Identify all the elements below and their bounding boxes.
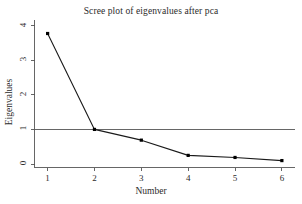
axes-group [31,20,295,171]
data-series-group [48,34,282,161]
data-point-marker [187,154,190,157]
data-point-marker [46,32,49,35]
plot-canvas [0,0,302,204]
data-point-marker [280,159,283,162]
data-point-marker [140,139,143,142]
data-markers-group [46,32,283,162]
eigenvalue-line [48,34,282,161]
scree-plot-figure: Scree plot of eigenvalues after pca Eige… [0,0,302,204]
data-point-marker [93,128,96,131]
data-point-marker [233,156,236,159]
